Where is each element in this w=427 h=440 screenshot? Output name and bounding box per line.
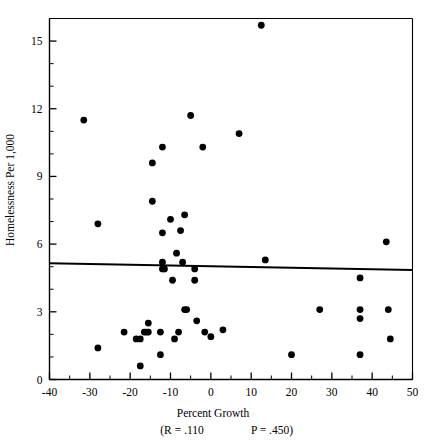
data-point bbox=[357, 306, 364, 313]
x-axis-ticks bbox=[50, 373, 413, 380]
x-tick-label: 30 bbox=[326, 386, 338, 398]
data-point bbox=[207, 333, 214, 340]
data-point bbox=[288, 351, 295, 358]
y-tick-label: 9 bbox=[37, 170, 43, 182]
y-tick-label: 3 bbox=[37, 306, 43, 318]
data-point bbox=[161, 266, 168, 273]
data-point bbox=[95, 220, 102, 227]
data-point bbox=[167, 216, 174, 223]
x-tick-label: -20 bbox=[122, 386, 138, 398]
regression-line bbox=[50, 263, 413, 270]
data-point-group bbox=[80, 22, 393, 369]
y-tick-label: 12 bbox=[31, 103, 43, 115]
regression-line-group bbox=[50, 263, 413, 270]
data-point bbox=[159, 229, 166, 236]
data-point bbox=[149, 160, 156, 167]
data-point bbox=[95, 345, 102, 352]
data-point bbox=[316, 306, 323, 313]
y-axis-ticks bbox=[50, 19, 57, 380]
x-tick-label: 20 bbox=[286, 386, 298, 398]
y-axis-title: Homelessness Per 1,000 bbox=[4, 134, 17, 246]
data-point bbox=[387, 335, 394, 342]
data-point bbox=[385, 306, 392, 313]
data-point bbox=[157, 329, 164, 336]
data-point bbox=[181, 211, 188, 218]
x-tick-label: 10 bbox=[245, 386, 257, 398]
y-tick-label: 0 bbox=[37, 374, 43, 386]
x-tick-label: 0 bbox=[208, 386, 214, 398]
y-axis-tick-labels: 03691215 bbox=[31, 35, 43, 385]
data-point bbox=[169, 277, 176, 284]
y-tick-label: 6 bbox=[37, 238, 43, 250]
data-point bbox=[175, 329, 182, 336]
data-point bbox=[137, 363, 144, 370]
x-tick-label: 50 bbox=[407, 386, 419, 398]
data-point bbox=[357, 275, 364, 282]
data-point bbox=[80, 117, 87, 124]
x-tick-label: -10 bbox=[163, 386, 179, 398]
data-point bbox=[177, 227, 184, 234]
p-value-label: P = .450) bbox=[251, 424, 293, 437]
data-point bbox=[137, 335, 144, 342]
x-tick-label: 40 bbox=[366, 386, 378, 398]
x-axis-tick-labels: -40-30-20-1001020304050 bbox=[42, 386, 419, 398]
x-tick-label: -30 bbox=[82, 386, 98, 398]
data-point bbox=[173, 250, 180, 257]
data-point bbox=[157, 351, 164, 358]
x-axis-title: Percent Growth bbox=[177, 407, 250, 419]
data-point bbox=[357, 315, 364, 322]
data-point bbox=[149, 198, 156, 205]
scatter-plot-svg: -40-30-20-1001020304050 03691215 Percent… bbox=[0, 0, 427, 440]
data-point bbox=[220, 326, 227, 333]
data-point bbox=[357, 351, 364, 358]
data-point bbox=[236, 130, 243, 137]
data-point bbox=[258, 22, 265, 29]
data-point bbox=[193, 317, 200, 324]
data-point bbox=[187, 112, 194, 119]
y-tick-label: 15 bbox=[31, 35, 43, 47]
data-point bbox=[121, 329, 128, 336]
data-point bbox=[159, 144, 166, 151]
data-point bbox=[171, 335, 178, 342]
data-point bbox=[201, 329, 208, 336]
scatter-plot-figure: -40-30-20-1001020304050 03691215 Percent… bbox=[0, 0, 427, 440]
data-point bbox=[191, 277, 198, 284]
correlation-r-label: (R = .110 bbox=[160, 424, 204, 437]
data-point bbox=[383, 238, 390, 245]
data-point bbox=[183, 306, 190, 313]
data-point bbox=[145, 329, 152, 336]
data-point bbox=[179, 259, 186, 266]
data-point bbox=[145, 320, 152, 327]
data-point bbox=[262, 257, 269, 264]
plot-frame bbox=[50, 19, 413, 380]
data-point bbox=[199, 144, 206, 151]
x-tick-label: -40 bbox=[42, 386, 58, 398]
